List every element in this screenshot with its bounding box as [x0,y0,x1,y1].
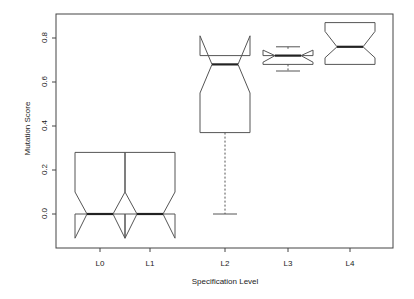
box-L3 [263,50,313,64]
y-tick-label: 0.0 [40,204,49,224]
box-L4 [325,23,375,65]
y-tick-label: 0.4 [40,116,49,136]
box-L1 [125,152,175,238]
x-tick-label: L2 [215,259,235,268]
plot-area [0,0,414,299]
x-tick-label: L4 [340,259,360,268]
box-L0 [75,152,125,238]
x-tick-label: L1 [140,259,160,268]
y-axis-label: Mutation Score [23,94,32,164]
y-tick-label: 0.8 [40,28,49,48]
y-tick-label: 0.2 [40,160,49,180]
x-tick-label: L3 [278,259,298,268]
box-L2 [200,36,250,133]
x-axis-label: Specification Level [150,277,300,286]
boxplot-chart: Mutation Score Specification Level L0L1L… [0,0,414,299]
y-tick-label: 0.6 [40,72,49,92]
x-tick-label: L0 [90,259,110,268]
